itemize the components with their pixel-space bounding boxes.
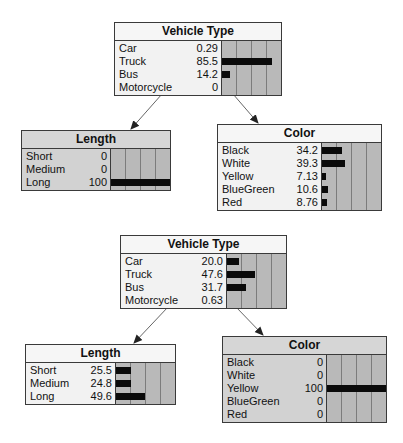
- state-row[interactable]: White39.3: [222, 157, 321, 170]
- bar-row: [322, 157, 381, 170]
- state-label: Truck: [119, 55, 197, 68]
- state-row[interactable]: Black34.2: [222, 144, 321, 157]
- probability-bar: [322, 160, 345, 167]
- state-probability: 0.29: [197, 42, 221, 55]
- state-row[interactable]: Long100: [26, 176, 110, 189]
- probability-bar: [227, 258, 239, 265]
- state-row[interactable]: Black0: [227, 356, 326, 369]
- state-row[interactable]: Car20.0: [125, 255, 226, 268]
- state-probability: 10.6: [297, 183, 321, 196]
- node-vehicle-type-2[interactable]: Vehicle TypeCar20.0Truck47.6Bus31.7Motor…: [120, 235, 287, 309]
- probability-bar: [322, 186, 328, 193]
- state-label: Red: [222, 196, 297, 209]
- state-probability: 0: [317, 395, 326, 408]
- state-label: BlueGreen: [222, 183, 297, 196]
- node-body: Short0Medium0Long100: [22, 149, 170, 190]
- state-label: Red: [227, 408, 317, 421]
- state-probability: 85.5: [197, 55, 221, 68]
- state-label: Yellow: [227, 382, 305, 395]
- edge-vehicle-to-length-2: [134, 307, 168, 343]
- state-label: Black: [227, 356, 317, 369]
- bar-row: [116, 364, 175, 377]
- state-list: Short25.5Medium24.8Long49.6: [26, 363, 115, 404]
- state-label: Long: [26, 176, 89, 189]
- bar-row: [222, 68, 281, 81]
- state-label: Black: [222, 144, 297, 157]
- bar-row: [322, 144, 381, 157]
- state-row[interactable]: Truck85.5: [119, 55, 221, 68]
- state-probability: 0: [317, 369, 326, 382]
- state-row[interactable]: Medium24.8: [30, 377, 115, 390]
- node-length-2[interactable]: LengthShort25.5Medium24.8Long49.6: [25, 344, 176, 405]
- state-probability: 0: [317, 408, 326, 421]
- state-row[interactable]: Truck47.6: [125, 268, 226, 281]
- belief-bars: [326, 355, 386, 422]
- state-list: Car0.29Truck85.5Bus14.2Motorcycle0: [115, 41, 221, 95]
- probability-bar: [116, 380, 131, 387]
- bar-row: [222, 42, 281, 55]
- state-probability: 0: [317, 356, 326, 369]
- bar-row: [327, 369, 386, 382]
- node-color-1[interactable]: ColorBlack34.2White39.3Yellow7.13BlueGre…: [217, 124, 382, 211]
- belief-bars: [115, 363, 175, 404]
- node-body: Black0White0Yellow100BlueGreen0Red0: [223, 355, 386, 422]
- state-row[interactable]: BlueGreen10.6: [222, 183, 321, 196]
- state-row[interactable]: White0: [227, 369, 326, 382]
- state-row[interactable]: Red8.76: [222, 196, 321, 209]
- state-list: Short0Medium0Long100: [22, 149, 110, 190]
- node-title: Color: [218, 125, 381, 143]
- node-vehicle-type-1[interactable]: Vehicle TypeCar0.29Truck85.5Bus14.2Motor…: [114, 22, 282, 96]
- state-label: White: [227, 369, 317, 382]
- state-row[interactable]: Medium0: [26, 163, 110, 176]
- node-color-2[interactable]: ColorBlack0White0Yellow100BlueGreen0Red0: [222, 336, 387, 423]
- state-probability: 34.2: [297, 144, 321, 157]
- state-probability: 7.13: [297, 170, 321, 183]
- state-label: Medium: [26, 163, 101, 176]
- state-row[interactable]: Long49.6: [30, 390, 115, 403]
- state-label: Medium: [30, 377, 91, 390]
- probability-bar: [111, 179, 170, 186]
- state-label: Long: [30, 390, 91, 403]
- state-list: Black0White0Yellow100BlueGreen0Red0: [223, 355, 326, 422]
- bar-row: [227, 268, 286, 281]
- probability-bar: [227, 271, 255, 278]
- state-probability: 8.76: [297, 196, 321, 209]
- state-probability: 0.63: [202, 294, 226, 307]
- probability-bar: [116, 367, 131, 374]
- node-title: Length: [22, 131, 170, 149]
- edge-vehicle-to-length-1: [131, 94, 162, 129]
- state-row[interactable]: Short0: [26, 150, 110, 163]
- state-row[interactable]: BlueGreen0: [227, 395, 326, 408]
- state-label: Yellow: [222, 170, 297, 183]
- bar-row: [116, 377, 175, 390]
- state-row[interactable]: Bus31.7: [125, 281, 226, 294]
- belief-bars: [321, 143, 381, 210]
- bar-row: [111, 176, 170, 189]
- belief-bars: [221, 41, 281, 95]
- bar-row: [327, 395, 386, 408]
- state-row[interactable]: Yellow7.13: [222, 170, 321, 183]
- state-row[interactable]: Red0: [227, 408, 326, 421]
- state-row[interactable]: Bus14.2: [119, 68, 221, 81]
- state-probability: 14.2: [197, 68, 221, 81]
- state-probability: 100: [89, 176, 110, 189]
- bar-row: [322, 183, 381, 196]
- node-length-1[interactable]: LengthShort0Medium0Long100: [21, 130, 171, 191]
- state-label: Bus: [119, 68, 197, 81]
- state-row[interactable]: Motorcycle0: [119, 81, 221, 94]
- bar-row: [327, 356, 386, 369]
- node-body: Short25.5Medium24.8Long49.6: [26, 363, 175, 404]
- probability-bar: [227, 284, 246, 291]
- state-row[interactable]: Car0.29: [119, 42, 221, 55]
- bar-row: [322, 170, 381, 183]
- bar-row: [327, 382, 386, 395]
- bar-row: [227, 281, 286, 294]
- node-title: Vehicle Type: [121, 236, 286, 254]
- state-row[interactable]: Short25.5: [30, 364, 115, 377]
- state-row[interactable]: Yellow100: [227, 382, 326, 395]
- state-row[interactable]: Motorcycle0.63: [125, 294, 226, 307]
- belief-bars: [226, 254, 286, 308]
- bar-row: [111, 163, 170, 176]
- state-probability: 0: [212, 81, 221, 94]
- state-list: Car20.0Truck47.6Bus31.7Motorcycle0.63: [121, 254, 226, 308]
